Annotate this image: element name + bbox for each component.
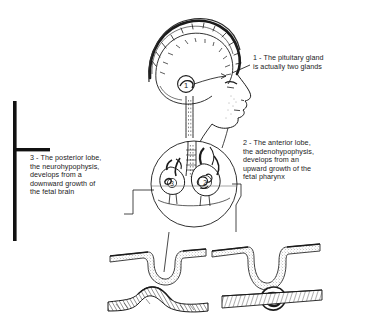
- head-marker-1-text: 1: [184, 81, 188, 90]
- illustration-canvas: 1: [0, 0, 365, 334]
- head-profile-panel: 1: [149, 19, 251, 150]
- annotation-label-3: 3 - The posterior lobe, the neurohypophy…: [30, 154, 142, 197]
- embryo-panel-bottom-left: [108, 287, 208, 312]
- embryo-panel-top-left: [110, 232, 206, 285]
- annotation-label-1: 1 - The pituitary gland is actually two …: [253, 54, 365, 71]
- annotation-label-2: 2 - The anterior lobe, the adenohypophys…: [243, 139, 363, 182]
- inset-marker-2-text: 2: [203, 179, 207, 186]
- leader-line-1: [194, 65, 250, 84]
- circular-inset-panel: 3 2: [151, 141, 237, 227]
